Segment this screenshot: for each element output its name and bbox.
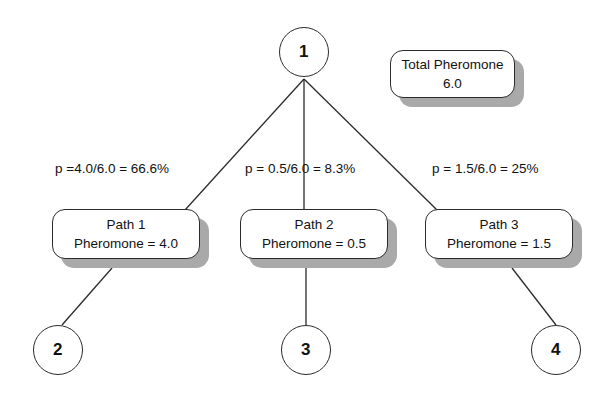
total-pheromone-value: 6.0 — [443, 74, 462, 93]
path-box-3-title: Path 3 — [479, 215, 518, 234]
node-root[interactable]: 1 — [279, 27, 329, 77]
path-box-1-face: Path 1 Pheromone = 4.0 — [52, 209, 200, 259]
diagram-canvas: 1 Total Pheromone 6.0 p =4.0/6.0 = 66.6%… — [0, 0, 614, 399]
path-box-3-face: Path 3 Pheromone = 1.5 — [425, 209, 573, 259]
edge-path3-to-node4 — [512, 268, 556, 325]
total-pheromone-box-face: Total Pheromone 6.0 — [390, 50, 515, 98]
probability-label-path1: p =4.0/6.0 = 66.6% — [55, 161, 169, 176]
probability-label-path2: p = 0.5/6.0 = 8.3% — [245, 161, 355, 176]
path-box-1-title: Path 1 — [106, 215, 145, 234]
node-leaf-2[interactable]: 2 — [33, 325, 83, 375]
node-leaf-4[interactable]: 4 — [531, 325, 581, 375]
total-pheromone-label: Total Pheromone — [401, 55, 503, 74]
probability-label-path3: p = 1.5/6.0 = 25% — [432, 161, 539, 176]
path-box-2[interactable]: Path 2 Pheromone = 0.5 — [240, 209, 388, 259]
path-box-1[interactable]: Path 1 Pheromone = 4.0 — [52, 209, 200, 259]
path-box-2-face: Path 2 Pheromone = 0.5 — [240, 209, 388, 259]
edge-path1-to-node2 — [62, 268, 112, 325]
path-box-3-pheromone: Pheromone = 1.5 — [447, 234, 551, 253]
node-leaf-3[interactable]: 3 — [281, 325, 331, 375]
path-box-3[interactable]: Path 3 Pheromone = 1.5 — [425, 209, 573, 259]
path-box-1-pheromone: Pheromone = 4.0 — [74, 234, 178, 253]
edge-root-to-path1 — [185, 79, 304, 210]
path-box-2-pheromone: Pheromone = 0.5 — [262, 234, 366, 253]
total-pheromone-box[interactable]: Total Pheromone 6.0 — [390, 50, 515, 98]
path-box-2-title: Path 2 — [294, 215, 333, 234]
